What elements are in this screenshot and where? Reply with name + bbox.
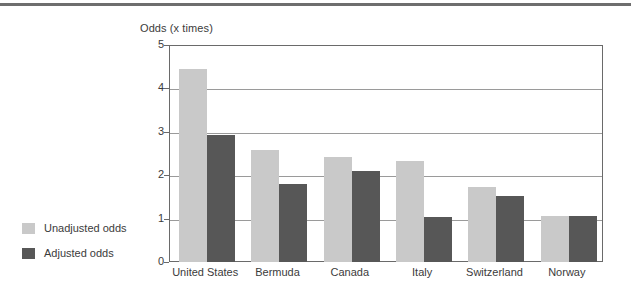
bar-adjusted — [279, 184, 307, 262]
x-tick-label: Norway — [531, 266, 603, 278]
y-tick-label-3: 3 — [142, 126, 164, 137]
x-tick-label: Bermuda — [241, 266, 313, 278]
bar-group — [458, 45, 530, 262]
y-tick-label-4: 4 — [142, 82, 164, 93]
bar-unadjusted — [396, 161, 424, 262]
x-tick-label: United States — [169, 266, 241, 278]
bar-group — [241, 45, 313, 262]
top-divider-rule — [0, 3, 631, 6]
y-tick-mark-4 — [164, 88, 169, 89]
y-tick-mark-2 — [164, 175, 169, 176]
y-tick-label-5: 5 — [142, 39, 164, 50]
legend-item: Unadjusted odds — [22, 222, 152, 234]
y-tick-mark-0 — [164, 262, 169, 263]
legend-swatch-icon — [22, 223, 35, 234]
bar-adjusted — [569, 216, 597, 262]
x-axis-tick-labels: United StatesBermudaCanadaItalySwitzerla… — [169, 266, 603, 284]
legend-item: Adjusted odds — [22, 247, 152, 259]
bar-group — [169, 45, 241, 262]
legend-label: Unadjusted odds — [44, 222, 127, 234]
x-tick-label: Italy — [386, 266, 458, 278]
chart-legend: Unadjusted oddsAdjusted odds — [22, 222, 152, 272]
bar-group — [386, 45, 458, 262]
bar-unadjusted — [468, 187, 496, 262]
bar-adjusted — [424, 217, 452, 262]
bar-unadjusted — [324, 157, 352, 262]
bar-unadjusted — [251, 150, 279, 262]
bar-group — [314, 45, 386, 262]
y-tick-mark-5 — [164, 45, 169, 46]
bar-unadjusted — [541, 216, 569, 262]
x-tick-label: Canada — [314, 266, 386, 278]
bar-group — [531, 45, 603, 262]
y-tick-mark-3 — [164, 132, 169, 133]
bar-adjusted — [496, 196, 524, 262]
y-axis-title: Odds (x times) — [140, 22, 213, 34]
y-tick-label-2: 2 — [142, 169, 164, 180]
bars-layer — [169, 45, 603, 262]
legend-label: Adjusted odds — [44, 247, 114, 259]
y-tick-mark-1 — [164, 219, 169, 220]
x-tick-label: Switzerland — [458, 266, 530, 278]
bar-adjusted — [207, 135, 235, 262]
bar-unadjusted — [179, 69, 207, 262]
legend-swatch-icon — [22, 248, 35, 259]
bar-adjusted — [352, 171, 380, 262]
